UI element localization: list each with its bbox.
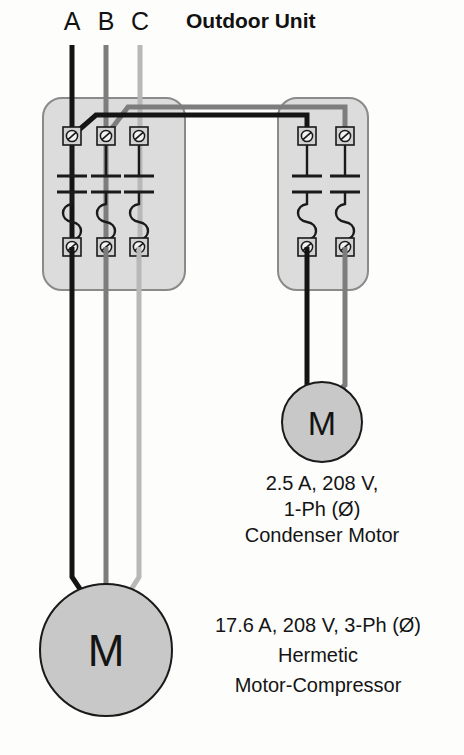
- condenser-motor-spec-line-2: 1-Ph (Ø): [284, 498, 361, 520]
- phase-label-a: A: [64, 7, 81, 35]
- motor-glyph-label: M: [308, 404, 336, 442]
- motor-glyph-label: M: [88, 626, 125, 675]
- terminal-top-phase-c: [130, 127, 148, 145]
- condenser-motor: M: [282, 382, 362, 462]
- compressor-spec-line-1: 17.6 A, 208 V, 3-Ph (Ø): [215, 614, 421, 636]
- page-title: Outdoor Unit: [186, 9, 315, 32]
- terminal-top-condenser-2: [336, 127, 354, 145]
- terminal-top-phase-b: [97, 127, 115, 145]
- terminal-top-condenser-1: [298, 127, 316, 145]
- hermetic-motor-compressor: M: [40, 584, 172, 716]
- wiring-diagram: Outdoor Unit A B C: [0, 0, 464, 755]
- condenser-motor-spec-line-3: Condenser Motor: [245, 524, 400, 546]
- phase-label-b: B: [98, 7, 115, 35]
- phase-label-c: C: [131, 7, 149, 35]
- wiring-diagram-canvas: Outdoor Unit A B C: [0, 0, 464, 755]
- compressor-spec-line-2: Hermetic: [278, 644, 358, 666]
- compressor-spec-line-3: Motor-Compressor: [235, 674, 402, 696]
- condenser-motor-spec-line-1: 2.5 A, 208 V,: [266, 472, 379, 494]
- terminal-top-phase-a: [63, 127, 81, 145]
